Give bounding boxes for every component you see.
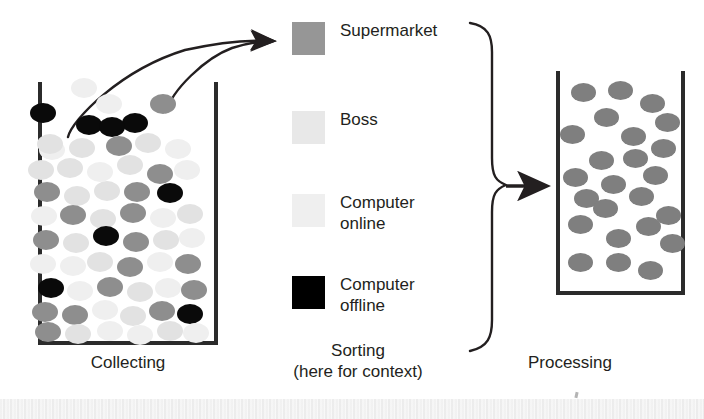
processing-dot [606, 229, 631, 248]
processing-dot [589, 151, 614, 170]
caption-collecting: Collecting [58, 352, 198, 373]
processing-dot [643, 166, 668, 185]
legend-label-boss: Boss [340, 109, 378, 130]
legend-item-boss: Boss [292, 111, 378, 144]
processing-dot [651, 139, 676, 158]
diagram-figure: Supermarket Boss Computer online Compute… [0, 0, 704, 419]
processing-dot [638, 261, 663, 280]
processing-dot [593, 199, 618, 218]
processing-dot [636, 217, 661, 236]
caption-processing: Processing [490, 352, 650, 373]
processing-dot [623, 149, 648, 168]
processing-dot [629, 187, 654, 206]
scan-texture-strip [0, 399, 704, 419]
legend-swatch-boss [292, 111, 325, 144]
legend-label-supermarket: Supermarket [340, 20, 437, 41]
processing-dot [568, 253, 593, 272]
processing-dot [640, 94, 665, 113]
legend-item-computer-online: Computer online [292, 194, 415, 234]
processing-dot [568, 215, 593, 234]
legend-item-supermarket: Supermarket [292, 22, 437, 55]
processing-dot [563, 168, 588, 187]
processing-dot [594, 108, 619, 127]
processing-dot [601, 175, 626, 194]
processing-dot [571, 83, 596, 102]
processing-dot [608, 81, 633, 100]
processing-dot [606, 253, 631, 272]
processing-dot [621, 127, 646, 146]
legend-swatch-computer-online [292, 194, 325, 227]
processing-dot [560, 125, 585, 144]
legend-label-computer-offline: Computer offline [340, 274, 415, 316]
processing-dot [660, 234, 685, 253]
legend-item-computer-offline: Computer offline [292, 276, 415, 316]
legend-swatch-computer-offline [292, 276, 325, 309]
caption-sorting: Sorting (here for context) [268, 340, 448, 382]
legend-label-computer-online: Computer online [340, 192, 415, 234]
legend-swatch-supermarket [292, 22, 325, 55]
processing-dot [655, 113, 680, 132]
